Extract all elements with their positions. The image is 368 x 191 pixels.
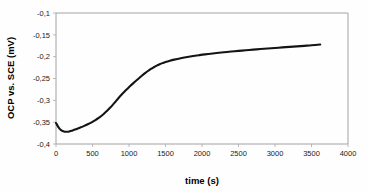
chart-background	[0, 0, 368, 191]
x-tick-label: 2000	[194, 149, 211, 158]
x-tick-label: 1500	[157, 149, 174, 158]
x-tick-label: 4000	[340, 149, 357, 158]
x-tick-label: 3000	[267, 149, 284, 158]
y-tick-label: -0,4	[37, 140, 50, 149]
x-tick-label: 0	[54, 149, 58, 158]
x-tick-label: 3500	[303, 149, 320, 158]
x-tick-label: 500	[86, 149, 99, 158]
y-tick-label: -0,3	[37, 96, 50, 105]
x-tick-label: 2500	[230, 149, 247, 158]
x-tick-label: 1000	[121, 149, 138, 158]
chart-figure: 05001000150020002500300035004000 -0,4-0,…	[0, 0, 368, 191]
y-tick-label: -0,25	[33, 74, 50, 83]
ocp-vs-time-line-chart: 05001000150020002500300035004000 -0,4-0,…	[0, 0, 368, 191]
y-tick-label: -0,35	[33, 118, 50, 127]
y-tick-label: -0,2	[37, 52, 50, 61]
y-tick-label: -0,15	[33, 31, 50, 40]
y-tick-label: -0,1	[37, 9, 50, 18]
y-axis-title: OCP vs. SCE (mV)	[5, 37, 16, 119]
x-axis-title: time (s)	[185, 175, 219, 186]
